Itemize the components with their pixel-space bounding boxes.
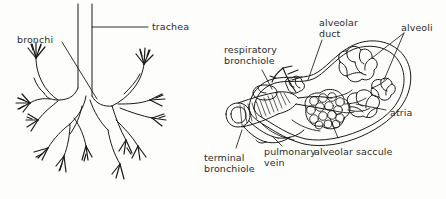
left-terminal-tufts: [16, 42, 92, 172]
label-trachea: trachea: [152, 21, 189, 32]
label-respiratory-bronchiole: respiratory bronchiole: [224, 44, 277, 66]
label-alveolar-saccule: alveolar saccule: [314, 146, 392, 157]
alveoli-cluster-right: [371, 78, 395, 100]
terminal-bronchiole-leader: [236, 130, 242, 148]
atria-leader: [356, 104, 386, 110]
label-pulmonary-vein: pulmonary vein: [264, 146, 316, 168]
trachea-shape: [78, 4, 92, 96]
label-bronchi: bronchi: [17, 34, 53, 45]
alveoli-leader-b: [384, 33, 404, 80]
label-alveolar-duct: alveolar duct: [319, 17, 358, 39]
terminal-bronchiole-tube: [226, 92, 298, 127]
label-alveoli: alveoli: [401, 22, 433, 33]
respiratory-anatomy-figure: bronchi trachea respiratory bronchiole a…: [0, 0, 446, 199]
alveoli-leader-a: [372, 33, 404, 58]
label-atria: atria: [390, 107, 412, 118]
right-terminal-tufts: [112, 48, 166, 179]
alveoli-cluster-upper: [339, 46, 378, 81]
label-terminal-bronchiole: terminal bronchiole: [204, 152, 255, 174]
